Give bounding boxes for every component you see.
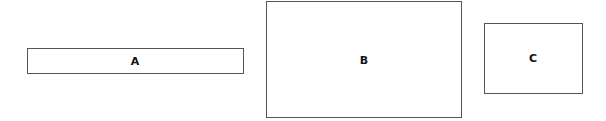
box-a-label: A	[131, 56, 140, 67]
box-b-label: B	[360, 55, 368, 66]
box-c-label: C	[529, 53, 537, 64]
